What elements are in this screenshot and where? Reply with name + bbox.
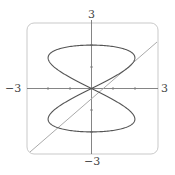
- plot-area: [0, 0, 175, 175]
- y-max-label: 3: [88, 9, 95, 20]
- x-min-label: −3: [5, 83, 21, 94]
- y-min-label: −3: [84, 156, 100, 167]
- x-max-label: 3: [161, 83, 168, 94]
- diagonal-line: [30, 42, 157, 152]
